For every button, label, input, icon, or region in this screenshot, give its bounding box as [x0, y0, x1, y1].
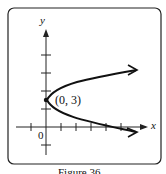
frame: [8, 8, 161, 164]
x-axis-label: x: [151, 119, 156, 131]
y-axis-label: y: [40, 14, 45, 26]
origin-label: 0: [38, 129, 44, 141]
vertex-label: (0, 3): [55, 93, 81, 108]
graph: [0, 0, 166, 174]
vertex-point: [44, 98, 48, 102]
figure-caption: Figure 36: [58, 166, 100, 174]
